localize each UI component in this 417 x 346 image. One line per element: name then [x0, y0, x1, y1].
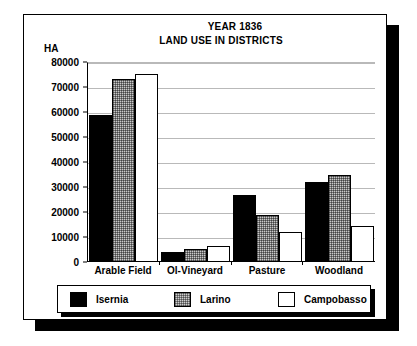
- chart-subtitle: LAND USE IN DISTRICTS: [24, 34, 388, 48]
- legend-swatch-isernia: [70, 292, 87, 307]
- bar-isernia-woodland: [305, 182, 328, 261]
- legend-item-larino[interactable]: Larino: [162, 292, 266, 307]
- chart-screenshot: YEAR 1836 LAND USE IN DISTRICTS HA 80000…: [0, 0, 417, 346]
- legend-label: Isernia: [96, 294, 128, 305]
- x-axis-category-label: Arable Field: [87, 265, 159, 276]
- x-axis-labels: Arable FieldOl-VineyardPastureWoodland: [87, 265, 375, 276]
- legend-swatch-campobasso: [278, 292, 295, 307]
- legend-label: Larino: [200, 294, 231, 305]
- bar-group: [303, 63, 375, 261]
- chart-card: YEAR 1836 LAND USE IN DISTRICTS HA 80000…: [23, 14, 387, 320]
- y-axis-tick-label: 0: [73, 257, 79, 268]
- y-axis-tick-label: 10000: [51, 232, 79, 243]
- x-axis-category-label: Pasture: [231, 265, 303, 276]
- bar-campobasso-arable-field: [135, 74, 158, 262]
- bar-group: [160, 63, 232, 261]
- y-axis-tick-label: 70000: [51, 82, 79, 93]
- plot-area: [87, 62, 375, 262]
- bar-larino-woodland: [328, 175, 351, 261]
- y-axis-tick-label: 50000: [51, 132, 79, 143]
- legend-label: Campobasso: [304, 294, 367, 305]
- y-axis-tick-label: 60000: [51, 107, 79, 118]
- y-axis-tick-label: 40000: [51, 157, 79, 168]
- chart-titles: YEAR 1836 LAND USE IN DISTRICTS: [24, 20, 388, 48]
- chart-title: YEAR 1836: [24, 20, 388, 34]
- bar-campobasso-woodland: [351, 226, 374, 261]
- bar-larino-arable-field: [112, 79, 135, 262]
- y-axis-tick-label: 80000: [51, 57, 79, 68]
- y-axis: 8000070000600005000040000300002000010000…: [37, 62, 83, 262]
- legend-item-isernia[interactable]: Isernia: [58, 292, 162, 307]
- bar-group: [232, 63, 304, 261]
- x-axis-category-label: Ol-Vineyard: [159, 265, 231, 276]
- x-axis-category-label: Woodland: [303, 265, 375, 276]
- chart-legend: IserniaLarinoCampobasso: [57, 285, 371, 313]
- bar-isernia-arable-field: [89, 115, 112, 261]
- bar-groups: [88, 63, 375, 261]
- bar-group: [88, 63, 160, 261]
- bar-campobasso-pasture: [279, 232, 302, 262]
- y-axis-tick-label: 20000: [51, 207, 79, 218]
- legend-item-campobasso[interactable]: Campobasso: [266, 292, 370, 307]
- bar-campobasso-ol-vineyard: [207, 246, 230, 262]
- bar-larino-pasture: [256, 215, 279, 261]
- y-axis-tick-label: 30000: [51, 182, 79, 193]
- bar-isernia-pasture: [233, 195, 256, 261]
- legend-swatch-larino: [174, 292, 191, 307]
- y-axis-unit-label: HA: [44, 43, 58, 54]
- bar-larino-ol-vineyard: [184, 249, 207, 262]
- plot-wrapper: 8000070000600005000040000300002000010000…: [37, 62, 377, 262]
- bar-isernia-ol-vineyard: [161, 252, 184, 262]
